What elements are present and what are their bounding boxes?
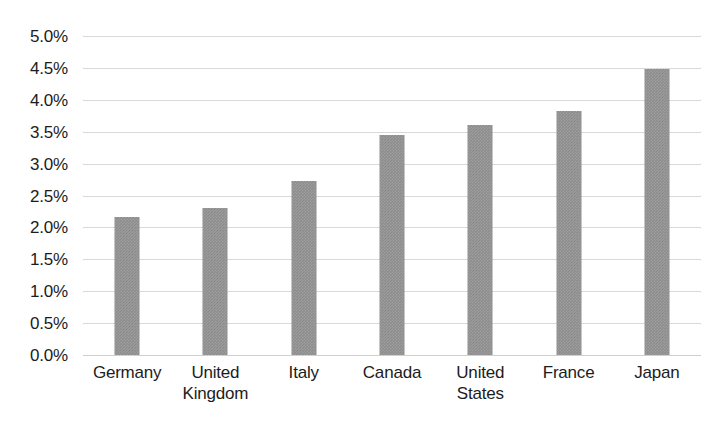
y-tick-label: 0.5% <box>30 315 68 332</box>
y-tick-label: 2.0% <box>30 219 68 236</box>
bar <box>203 208 228 355</box>
x-tick-label-line: France <box>524 362 612 383</box>
bar <box>644 69 669 355</box>
x-tick-label-line: United <box>171 362 259 383</box>
x-tick-label-line: States <box>436 383 524 404</box>
y-tick-label: 5.0% <box>30 28 68 45</box>
x-tick-label: Canada <box>348 362 436 383</box>
bar <box>468 125 493 355</box>
bar-group <box>83 36 171 355</box>
x-axis: GermanyUnitedKingdomItalyCanadaUnitedSta… <box>83 362 701 422</box>
plot-area <box>83 36 701 355</box>
bar-chart: 5.0%4.5%4.0%3.5%3.0%2.5%2.0%1.5%1.0%0.5%… <box>0 0 718 433</box>
bar-group <box>613 36 701 355</box>
bar-group <box>260 36 348 355</box>
x-tick-label: Germany <box>83 362 171 383</box>
bar <box>379 135 404 355</box>
bar <box>556 111 581 355</box>
y-tick-label: 3.0% <box>30 155 68 172</box>
x-tick-label-line: Germany <box>83 362 171 383</box>
y-tick-label: 1.5% <box>30 251 68 268</box>
y-tick-label: 0.0% <box>30 347 68 364</box>
y-tick-label: 2.5% <box>30 187 68 204</box>
x-tick-label-line: Kingdom <box>171 383 259 404</box>
y-tick-label: 4.0% <box>30 91 68 108</box>
x-tick-label: UnitedKingdom <box>171 362 259 404</box>
x-tick-label: Italy <box>260 362 348 383</box>
x-tick-label-line: Japan <box>613 362 701 383</box>
x-tick-label: France <box>524 362 612 383</box>
x-tick-label: Japan <box>613 362 701 383</box>
y-axis: 5.0%4.5%4.0%3.5%3.0%2.5%2.0%1.5%1.0%0.5%… <box>0 0 76 433</box>
bar <box>291 181 316 355</box>
bar <box>115 217 140 355</box>
x-tick-label: UnitedStates <box>436 362 524 404</box>
bar-group <box>171 36 259 355</box>
y-tick-label: 4.5% <box>30 59 68 76</box>
x-tick-label-line: Canada <box>348 362 436 383</box>
x-tick-label-line: Italy <box>260 362 348 383</box>
bar-group <box>348 36 436 355</box>
bar-group <box>436 36 524 355</box>
y-tick-label: 1.0% <box>30 283 68 300</box>
gridline <box>83 355 701 356</box>
y-tick-label: 3.5% <box>30 123 68 140</box>
x-tick-label-line: United <box>436 362 524 383</box>
bar-group <box>524 36 612 355</box>
